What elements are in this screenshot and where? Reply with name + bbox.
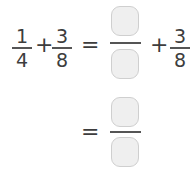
denominator: 4 [14, 51, 30, 70]
plus-operator: + [35, 34, 47, 56]
numerator-input-box[interactable] [111, 97, 139, 127]
numerator: 3 [172, 27, 188, 46]
numerator-input-box[interactable] [111, 6, 139, 36]
equals-sign: = [81, 34, 97, 56]
denominator-input-box[interactable] [111, 49, 139, 79]
equals-sign: = [81, 121, 97, 143]
fraction-bar [110, 42, 141, 44]
denominator: 8 [172, 51, 188, 70]
denominator-input-box[interactable] [111, 137, 139, 167]
fraction-bar [110, 131, 141, 133]
numerator: 1 [14, 27, 30, 46]
plus-operator: + [150, 34, 162, 56]
numerator: 3 [54, 27, 70, 46]
denominator: 8 [54, 51, 70, 70]
